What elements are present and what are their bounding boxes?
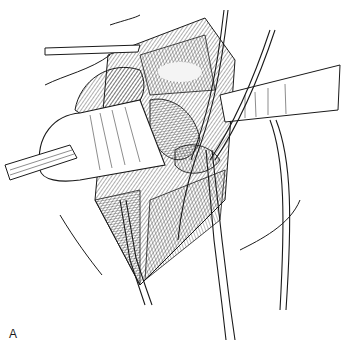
left-retractor (5, 100, 165, 181)
surgical-illustration (0, 0, 352, 354)
right-retractor (220, 65, 340, 122)
panel-label: A (9, 327, 17, 341)
